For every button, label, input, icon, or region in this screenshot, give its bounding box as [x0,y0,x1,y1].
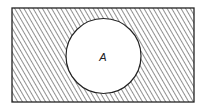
set-a-label: A [98,51,106,63]
venn-diagram: A [0,0,207,109]
